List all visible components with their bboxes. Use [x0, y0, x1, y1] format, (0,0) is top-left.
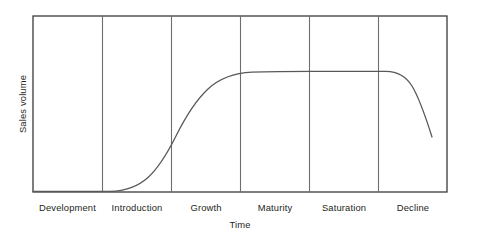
stage-label-maturity: Maturity: [258, 202, 293, 213]
stage-label-growth: Growth: [190, 202, 221, 213]
chart-canvas: Development Introduction Growth Maturity…: [0, 0, 480, 239]
stage-label-introduction: Introduction: [112, 202, 163, 213]
product-life-cycle-chart: Development Introduction Growth Maturity…: [0, 0, 480, 239]
stage-label-decline: Decline: [397, 202, 429, 213]
stage-label-saturation: Saturation: [322, 202, 366, 213]
y-axis-title: Sales volume: [17, 75, 28, 133]
x-axis-title: Time: [229, 219, 250, 230]
stage-label-development: Development: [39, 202, 96, 213]
